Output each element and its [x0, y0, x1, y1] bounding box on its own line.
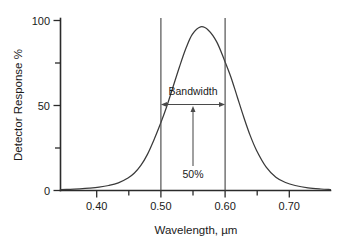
bandwidth-annotation: Bandwidth [161, 85, 225, 107]
response-curve [61, 27, 331, 190]
y-axis-title: Detector Response % [12, 49, 24, 161]
half-max-annotation: 50% [182, 106, 203, 180]
chart-figure: 100 50 0 0.40 0.50 0.60 0.70 Bandwi [0, 0, 337, 246]
x-tick-label-040: 0.40 [86, 200, 107, 212]
half-max-arrow-head [191, 106, 196, 112]
y-tick-label-100: 100 [32, 15, 50, 27]
half-max-label: 50% [182, 168, 203, 180]
x-tick-label-070: 0.70 [279, 200, 300, 212]
x-tick-label-060: 0.60 [214, 200, 235, 212]
bandwidth-arrow-head-left [161, 102, 167, 107]
y-tick-label-0: 0 [44, 185, 50, 197]
bandwidth-label: Bandwidth [168, 85, 217, 97]
x-ticks-group: 0.40 0.50 0.60 0.70 [86, 191, 300, 213]
y-tick-label-50: 50 [38, 100, 50, 112]
x-tick-label-050: 0.50 [150, 200, 171, 212]
y-ticks-group: 100 50 0 [32, 15, 61, 197]
spectral-response-chart: 100 50 0 0.40 0.50 0.60 0.70 Bandwi [0, 0, 337, 246]
x-axis-title: Wavelength, µm [155, 224, 238, 236]
bandwidth-arrow-head-right [219, 102, 225, 107]
